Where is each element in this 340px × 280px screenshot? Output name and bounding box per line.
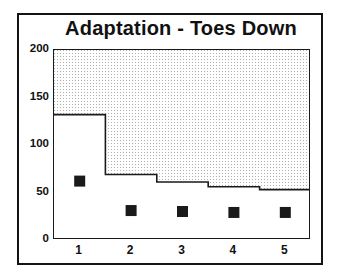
y-tick-label: 150 xyxy=(15,91,49,102)
y-tick-label: 100 xyxy=(15,138,49,149)
plot-area xyxy=(53,49,310,239)
data-marker xyxy=(228,207,239,218)
x-tick-label: 5 xyxy=(271,243,297,257)
x-tick-label: 3 xyxy=(169,243,195,257)
x-axis: 12345 xyxy=(53,243,310,261)
y-tick-label: 0 xyxy=(15,233,49,244)
data-marker xyxy=(280,207,291,218)
data-marker xyxy=(177,206,188,217)
data-marker xyxy=(74,176,85,187)
plot-canvas xyxy=(54,50,310,239)
y-tick-label: 200 xyxy=(15,43,49,54)
y-axis: 050100150200 xyxy=(13,0,49,280)
x-tick-label: 1 xyxy=(66,243,92,257)
x-tick-label: 2 xyxy=(117,243,143,257)
x-tick-label: 4 xyxy=(220,243,246,257)
data-marker xyxy=(126,205,137,216)
chart-figure: Adaptation - Toes Down 050100150200 1234… xyxy=(0,0,340,280)
y-tick-label: 50 xyxy=(15,186,49,197)
chart-title: Adaptation - Toes Down xyxy=(40,17,322,40)
